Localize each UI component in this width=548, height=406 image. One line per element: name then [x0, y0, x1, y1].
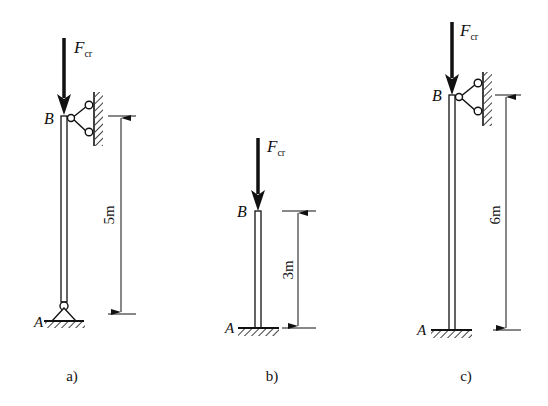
column	[255, 211, 261, 328]
panel-a: Fcr B A 5m a)	[33, 38, 136, 385]
panel-caption: c)	[460, 368, 472, 385]
node-a-label: A	[33, 314, 44, 330]
length-label: 6m	[487, 205, 503, 225]
fixed-support-icon	[238, 328, 279, 336]
diagram-canvas: Fcr B A 5m a)	[0, 0, 548, 406]
panel-caption: a)	[66, 368, 78, 385]
node-b-label: B	[44, 110, 54, 127]
panel-b: Fcr B A 3m b)	[224, 137, 316, 385]
node-b-label: B	[432, 87, 442, 104]
length-label: 5m	[101, 205, 117, 225]
node-a-label: A	[224, 320, 235, 336]
column	[449, 95, 455, 330]
load-arrow-icon	[57, 38, 71, 115]
load-label: Fcr	[73, 38, 93, 59]
load-label: Fcr	[459, 21, 479, 42]
length-label: 3m	[280, 260, 296, 280]
node-b-label: B	[237, 203, 247, 220]
panel-caption: b)	[266, 368, 279, 385]
load-label: Fcr	[266, 137, 286, 158]
load-arrow-icon	[445, 22, 459, 95]
pin-support-icon	[44, 302, 85, 328]
fixed-support-icon	[431, 330, 472, 338]
node-a-label: A	[416, 322, 427, 338]
hinge-link-support-icon	[68, 92, 104, 146]
hinge-link-support-icon	[456, 72, 493, 126]
column	[61, 116, 67, 302]
load-arrow-icon	[251, 138, 265, 211]
panel-c: Fcr B A 6m c)	[416, 21, 521, 385]
